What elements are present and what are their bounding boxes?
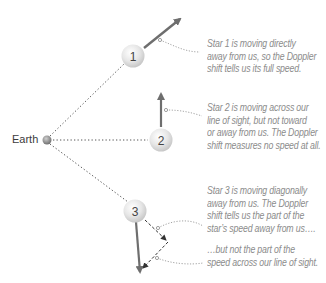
caption-line: Star 3 is moving diagonally — [207, 185, 315, 198]
caption-line: speed across our line of sight. — [207, 257, 318, 270]
star-1-number: 1 — [130, 50, 137, 64]
caption-line: away from us, so the Doppler — [207, 51, 316, 64]
line-of-sight-3 — [50, 144, 128, 202]
earth-icon — [43, 136, 52, 145]
caption-line: shift measures no speed at all. — [207, 140, 321, 153]
star-3-transverse-caption-pointer — [157, 258, 203, 264]
star-2-number: 2 — [158, 134, 165, 148]
star-3-velocity-arrow — [136, 222, 140, 272]
earth-label: Earth — [12, 133, 38, 145]
caption-line: Star 1 is moving directly — [207, 38, 316, 51]
star-2: 2 — [150, 129, 173, 152]
caption-line: …but not the part of the — [207, 244, 318, 257]
star-3-number: 3 — [132, 205, 139, 219]
caption-line: line of sight, but not toward — [207, 115, 321, 128]
star-1-velocity-arrow — [144, 19, 180, 48]
star-1-caption: Star 1 is moving directly away from us, … — [207, 38, 316, 76]
line-of-sight-1 — [50, 63, 125, 136]
star-2-caption-pointer — [166, 110, 202, 116]
star-2-caption: Star 2 is moving across our line of sigh… — [207, 102, 321, 152]
caption-line: away from us. The Doppler — [207, 198, 315, 211]
star-1: 1 — [122, 45, 145, 68]
star-1-caption-pointer — [160, 40, 200, 52]
caption-line: or away from us. The Doppler — [207, 127, 321, 140]
caption-line: Star 2 is moving across our — [207, 102, 321, 115]
caption-line: shift tells us its full speed. — [207, 63, 316, 76]
star-3-transverse-component-arrow — [143, 242, 168, 268]
star-3-caption-radial: Star 3 is moving diagonally away from us… — [207, 185, 315, 235]
caption-line: shift tells us the part of the — [207, 210, 315, 223]
star-3-radial-caption-pointer — [158, 221, 203, 228]
caption-line: star’s speed away from us…. — [207, 223, 315, 236]
star-3-radial-component-arrow — [145, 220, 166, 240]
star-3-caption-transverse: …but not the part of the speed across ou… — [207, 244, 318, 269]
star-3: 3 — [124, 200, 147, 223]
